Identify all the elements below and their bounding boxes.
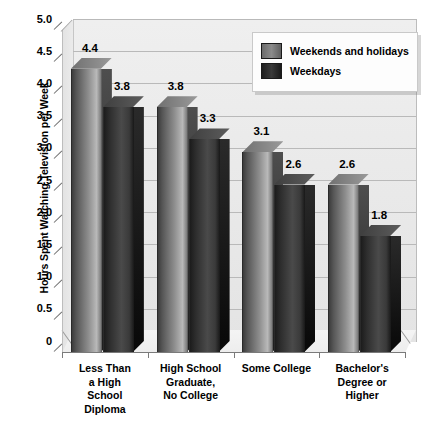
floor-right-edge	[401, 330, 417, 353]
x-axis-tick-mark	[405, 352, 406, 358]
bar-value-label: 3.8	[168, 80, 184, 92]
bar-side-face	[390, 236, 401, 352]
bar-front-face	[157, 107, 188, 352]
bar-side-face	[219, 139, 230, 352]
bar-value-label: 3.3	[200, 112, 216, 124]
bar	[157, 107, 187, 352]
bar-value-label: 3.8	[114, 80, 130, 92]
y-axis-tick-mark	[54, 54, 63, 62]
bar-side-face	[304, 185, 315, 352]
y-axis-tick-mark	[54, 215, 63, 223]
y-axis-tick-mark	[54, 247, 63, 255]
y-axis-tick-label: 1.0	[18, 271, 52, 282]
y-axis-tick-mark	[54, 279, 63, 287]
x-axis-category-label: High School Graduate, No College	[142, 362, 240, 403]
television-viewing-bar-chart: 4.43.83.83.33.12.62.61.8 Hours Spent Wat…	[0, 0, 439, 434]
y-axis-tick-mark	[54, 182, 63, 190]
bar	[103, 107, 133, 352]
y-axis-tick-label: 1.5	[18, 238, 52, 249]
bar-front-face	[103, 107, 134, 352]
y-axis-tick-label: 2.5	[18, 174, 52, 185]
x-axis-category-label: Some College	[227, 362, 325, 376]
y-axis-tick-label: 2.0	[18, 206, 52, 217]
bar-front-face	[274, 185, 305, 352]
bar-value-label: 1.8	[371, 209, 387, 221]
legend-item-weekdays: Weekdays	[261, 63, 409, 79]
y-axis-tick-mark	[54, 86, 63, 94]
bar-value-label: 3.1	[253, 125, 269, 137]
chart-legend: Weekends and holidays Weekdays	[252, 32, 418, 92]
x-axis-tick-mark	[319, 352, 320, 358]
y-axis-tick-labels: 00.51.01.52.02.53.03.54.04.55.0	[14, 0, 52, 434]
bar-front-face	[71, 69, 102, 352]
x-axis-category-label: Bachelor's Degree or Higher	[313, 362, 411, 403]
y-axis-tick-label: 4.5	[18, 45, 52, 56]
bar-front-face	[360, 236, 391, 352]
y-axis-tick-label: 0	[18, 335, 52, 346]
y-axis-tick-label: 0.5	[18, 303, 52, 314]
bar	[274, 185, 304, 352]
y-axis-tick-mark	[54, 150, 63, 158]
y-axis-tick-mark	[54, 343, 63, 351]
chart-source-caption	[120, 426, 435, 434]
bar-front-face	[328, 185, 359, 352]
bar	[328, 185, 358, 352]
y-axis-tick-mark	[54, 311, 63, 319]
bar	[189, 139, 219, 352]
y-axis-tick-mark	[54, 118, 63, 126]
y-axis-tick-label: 4.0	[18, 77, 52, 88]
bar	[242, 152, 272, 352]
y-axis-tick-label: 5.0	[18, 13, 52, 24]
bar-value-label: 4.4	[82, 42, 98, 54]
y-axis-tick-label: 3.0	[18, 142, 52, 153]
x-axis-category-label: Less Than a High School Diploma	[56, 362, 154, 416]
legend-swatch-weekends	[261, 43, 282, 59]
x-axis-tick-mark	[234, 352, 235, 358]
bar-value-label: 2.6	[339, 158, 355, 170]
bar	[360, 236, 390, 352]
bar-value-label: 2.6	[285, 158, 301, 170]
y-axis-tick-label: 3.5	[18, 110, 52, 121]
legend-swatch-weekdays	[261, 63, 282, 79]
y-axis-tick-mark	[54, 21, 63, 29]
legend-label-weekends: Weekends and holidays	[290, 46, 409, 57]
bar-front-face	[242, 152, 273, 352]
legend-label-weekdays: Weekdays	[290, 66, 341, 77]
x-axis-tick-mark	[148, 352, 149, 358]
gridline	[73, 19, 416, 20]
legend-item-weekends: Weekends and holidays	[261, 43, 409, 59]
bar	[71, 69, 101, 352]
bar-front-face	[189, 139, 220, 352]
bar-side-face	[133, 107, 144, 352]
